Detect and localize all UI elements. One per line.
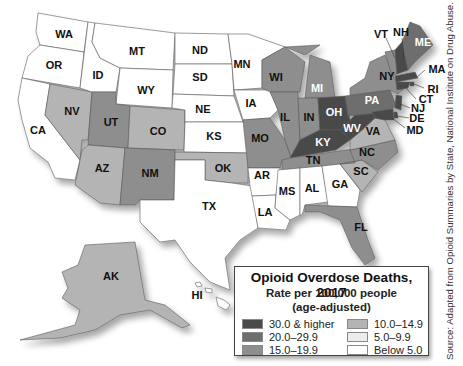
label-or: OR xyxy=(46,59,63,71)
state-nj xyxy=(395,95,402,110)
legend-label: 10.0–14.9 xyxy=(374,318,423,330)
state-ri xyxy=(410,82,414,86)
label-me: ME xyxy=(415,36,432,48)
label-wy: WY xyxy=(137,84,155,96)
legend-item-5-9: 5.0–9.9 xyxy=(347,331,411,343)
label-ia: IA xyxy=(246,97,257,109)
label-ne: NE xyxy=(195,103,210,115)
label-nc: NC xyxy=(359,146,375,158)
label-ky: KY xyxy=(315,136,331,148)
label-ny: NY xyxy=(379,70,395,82)
leader-ct xyxy=(405,87,416,99)
map-legend: Opioid Overdose Deaths, 2017 Rate per 10… xyxy=(234,266,429,356)
label-nh: NH xyxy=(393,26,409,38)
leader-de xyxy=(397,116,409,118)
label-sc: SC xyxy=(353,165,368,177)
legend-item-20-29: 20.0–29.9 xyxy=(242,331,318,343)
state-ct xyxy=(396,82,410,90)
legend-label: Below 5.0 xyxy=(374,344,422,356)
label-pa: PA xyxy=(365,94,380,106)
label-md: MD xyxy=(406,124,423,136)
legend-item-30-plus: 30.0 & higher xyxy=(242,318,334,330)
label-ms: MS xyxy=(279,185,296,197)
label-mn: MN xyxy=(233,58,250,70)
state-ak xyxy=(20,242,190,340)
legend-label: 30.0 & higher xyxy=(269,318,334,330)
leader-ri xyxy=(414,84,424,88)
legend-label: 15.0–19.9 xyxy=(269,344,318,356)
label-ks: KS xyxy=(206,130,221,142)
label-wa: WA xyxy=(55,28,73,40)
label-nv: NV xyxy=(64,105,80,117)
label-wi: WI xyxy=(269,71,282,83)
label-ok: OK xyxy=(215,162,232,174)
label-vt: VT xyxy=(374,28,388,40)
label-de: DE xyxy=(409,112,424,124)
legend-item-15-19: 15.0–19.9 xyxy=(242,344,318,356)
label-ga: GA xyxy=(332,178,349,190)
label-ar: AR xyxy=(254,169,270,181)
label-va: VA xyxy=(366,125,381,137)
legend-swatch xyxy=(242,319,263,329)
label-fl: FL xyxy=(354,221,368,233)
legend-item-below-5: Below 5.0 xyxy=(347,344,422,356)
legend-label: 20.0–29.9 xyxy=(269,331,318,343)
label-oh: OH xyxy=(326,106,343,118)
legend-swatch xyxy=(347,332,368,342)
legend-swatch xyxy=(242,345,263,355)
legend-label: 5.0–9.9 xyxy=(374,331,411,343)
legend-swatch xyxy=(347,319,368,329)
label-az: AZ xyxy=(95,162,110,174)
label-tn: TN xyxy=(306,154,321,166)
label-ca: CA xyxy=(30,124,46,136)
label-co: CO xyxy=(150,125,167,137)
legend-subtitle: Rate per 100,000 people xyxy=(235,287,428,299)
label-in: IN xyxy=(304,111,315,123)
label-mo: MO xyxy=(251,132,269,144)
label-ut: UT xyxy=(104,116,119,128)
label-id: ID xyxy=(93,69,104,81)
label-mi: MI xyxy=(311,82,323,94)
label-la: LA xyxy=(258,206,273,218)
label-il: IL xyxy=(280,111,290,123)
state-az xyxy=(75,145,125,205)
legend-swatch xyxy=(347,345,368,355)
label-al: AL xyxy=(305,182,320,194)
leader-ma xyxy=(418,70,425,76)
legend-subtitle-note: (age-adjusted) xyxy=(235,301,428,313)
label-nm: NM xyxy=(141,167,158,179)
state-de xyxy=(394,112,398,118)
source-citation: Source: Adapted from Opioid Summaries by… xyxy=(444,2,455,360)
state-fl xyxy=(305,205,375,265)
legend-item-10-14: 10.0–14.9 xyxy=(347,318,423,330)
label-nd: ND xyxy=(192,44,208,56)
legend-swatch xyxy=(242,332,263,342)
label-mt: MT xyxy=(129,45,145,57)
label-sd: SD xyxy=(192,71,207,83)
leader-md xyxy=(392,118,405,128)
label-ak: AK xyxy=(103,270,119,282)
label-hi: HI xyxy=(192,289,203,301)
label-wv: WV xyxy=(343,122,361,134)
label-tx: TX xyxy=(202,200,217,212)
